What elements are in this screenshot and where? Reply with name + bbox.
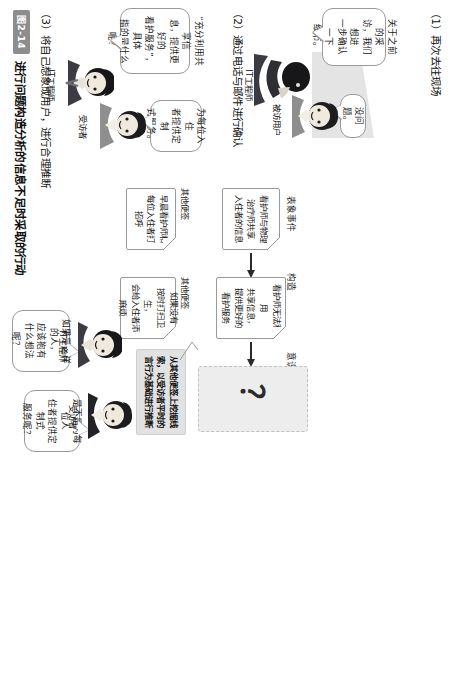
person-illustration-interviewee-3 xyxy=(78,390,132,444)
chain-node-0: 看护师与物理 治疗师共享 入住者的信息 xyxy=(222,188,280,250)
rotated-page-wrapper: （1）再次去往现场 关于之前的采 访，我们想进 一步确认一下 细节。 IT工程师… xyxy=(0,0,458,694)
bubble-tail-icon xyxy=(313,27,324,41)
other-note-1: 如果没有 按时打扫卫生， 会给入住者添麻烦 xyxy=(120,277,176,339)
person-illustration-engineer-3 xyxy=(68,320,122,372)
figure-caption-text: 进行问题构造分析的信息不足时采取的行动 xyxy=(14,61,30,276)
section1-user: 被访用户 xyxy=(280,92,338,144)
section1-user-label: 被访用户 xyxy=(272,94,284,146)
section3-interviewee-label: 受访者 xyxy=(68,390,80,444)
figure-page: （1）再次去往现场 关于之前的采 访，我们想进 一步确认一下 细节。 IT工程师… xyxy=(0,0,458,694)
section2-interviewee-bubble: 为每位入住 者提供定制 式服务。 xyxy=(150,100,202,152)
chain-node-1: 看护师无法利用 共享信息， 提供更好的 看护服务 xyxy=(216,277,286,339)
other-note-label-1: 其他便签 xyxy=(180,277,192,309)
insight-note-pointer-icon xyxy=(178,336,200,362)
column-header-1: 构造 xyxy=(286,273,298,291)
chain-node-2-unknown: ？ xyxy=(198,366,308,432)
section2-interviewee: 受访者 xyxy=(88,100,146,154)
other-note-label-0: 其他便签 xyxy=(180,188,192,220)
section3-engineer-label: IT工程师 xyxy=(58,320,70,372)
section3-engineer: IT工程师 xyxy=(68,320,122,372)
section2-interviewee-label: 受访者 xyxy=(78,100,90,154)
section2-engineer-bubble: “充分利用共享信 息，提供更好的 看护服务”，具体 指的是什么呢？ xyxy=(120,8,190,74)
bubble-tail-icon xyxy=(111,35,122,49)
figure-caption: 图2-14 进行问题构造分析的信息不足时采取的行动 xyxy=(13,10,30,276)
chain-arrow-1 xyxy=(250,342,252,360)
section-2-heading: （2）通过电话与邮件进行确认 xyxy=(231,8,246,147)
other-note-0: 早晨看护师和 每位入住者打招呼 xyxy=(126,188,176,250)
section3-interviewee: 受访者 xyxy=(78,390,132,444)
section1-engineer-bubble: 关于之前的采 访，我们想进 一步确认一下 细节。 xyxy=(322,8,386,66)
person-illustration-interviewee-2 xyxy=(88,100,146,154)
section1-user-bubble: 没问题。 xyxy=(340,94,366,138)
person-illustration-user-1 xyxy=(280,92,338,144)
section-1-heading: （1）再次去往现场 xyxy=(429,8,444,96)
section-3-heading: （3）将自己想象成用户，进行合理推断 xyxy=(39,8,54,188)
figure-badge: 图2-14 xyxy=(13,10,30,54)
column-header-0: 表象事件 xyxy=(286,196,298,232)
chain-arrow-0 xyxy=(250,253,252,271)
